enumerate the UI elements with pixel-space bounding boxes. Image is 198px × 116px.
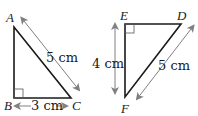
- label-df-length: 5 cm: [158, 58, 190, 73]
- vertex-label-d: D: [176, 8, 187, 23]
- right-angle-marker-e: [125, 24, 134, 33]
- label-bc-length: 3 cm: [31, 98, 63, 113]
- vertex-label-a: A: [5, 10, 14, 25]
- triangle-edf: E D F 4 cm 5 cm: [92, 8, 191, 116]
- triangle-abc: A B C 5 cm 3 cm: [4, 10, 81, 113]
- vertex-label-f: F: [120, 101, 130, 116]
- vertex-label-e: E: [119, 8, 128, 23]
- right-angle-marker-b: [14, 89, 23, 98]
- triangles-diagram: A B C 5 cm 3 cm E D F 4 cm 5 cm: [0, 0, 198, 116]
- vertex-label-b: B: [4, 98, 12, 113]
- label-ac-length: 5 cm: [46, 50, 78, 65]
- label-ef-length: 4 cm: [92, 56, 124, 71]
- vertex-label-c: C: [72, 98, 81, 113]
